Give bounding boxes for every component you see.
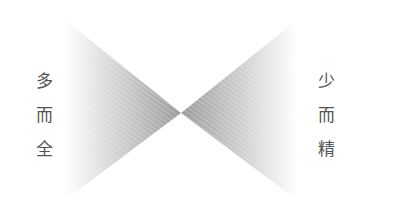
diagram-canvas: 多 而 全 少 而 精	[0, 0, 394, 209]
left-label-char: 全	[33, 132, 55, 166]
right-label: 少 而 精	[315, 64, 337, 166]
right-label-char: 而	[315, 98, 337, 132]
right-label-char: 少	[315, 64, 337, 98]
left-label: 多 而 全	[33, 64, 55, 166]
right-label-char: 精	[315, 132, 337, 166]
left-label-char: 多	[33, 64, 55, 98]
left-label-char: 而	[33, 98, 55, 132]
